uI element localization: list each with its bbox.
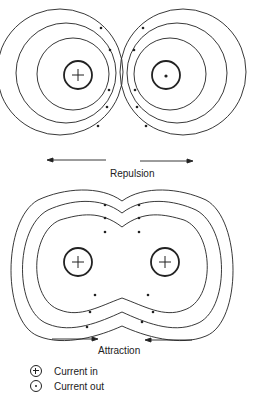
conductor-current-in-icon — [64, 248, 92, 276]
conductor-current-out-icon — [152, 61, 180, 89]
repulsion-field-lines — [0, 9, 246, 135]
attraction-field-lines — [11, 190, 233, 341]
attraction-arrowheads — [86, 204, 155, 329]
legend-item-current-in: Current in — [30, 364, 98, 378]
current-out-icon — [30, 380, 42, 392]
attraction-label: Attraction — [98, 345, 140, 356]
legend-label: Current out — [54, 381, 104, 392]
attraction-arrows — [52, 337, 192, 342]
legend-item-current-out: Current out — [30, 379, 104, 393]
field-diagram — [0, 0, 258, 396]
conductor-current-in-icon — [151, 248, 179, 276]
repulsion-arrowheads — [97, 27, 148, 128]
repulsion-label: Repulsion — [110, 168, 154, 179]
legend-label: Current in — [54, 366, 98, 377]
current-in-icon — [30, 365, 42, 377]
conductor-current-in-icon — [64, 61, 92, 89]
repulsion-arrows — [47, 158, 193, 163]
